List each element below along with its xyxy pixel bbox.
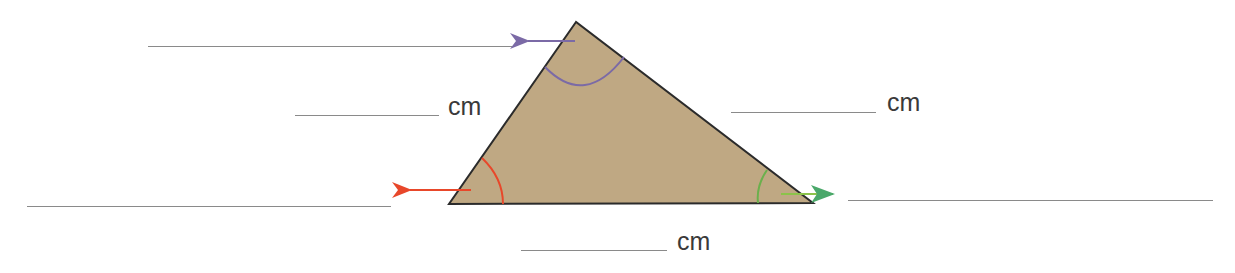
bottom-left-angle-answer-line[interactable] xyxy=(27,206,391,207)
left-side-unit-label: cm xyxy=(448,94,481,119)
triangle-diagram xyxy=(0,0,1235,273)
bottom-side-unit-label: cm xyxy=(677,229,710,254)
right-side-answer-line[interactable] xyxy=(731,112,876,113)
top-angle-answer-line[interactable] xyxy=(148,46,512,47)
triangle-shape xyxy=(449,22,813,204)
bottom-right-angle-answer-line[interactable] xyxy=(848,200,1213,201)
bottom-side-answer-line[interactable] xyxy=(521,250,667,251)
right-side-unit-label: cm xyxy=(887,90,920,115)
left-side-answer-line[interactable] xyxy=(295,115,439,116)
